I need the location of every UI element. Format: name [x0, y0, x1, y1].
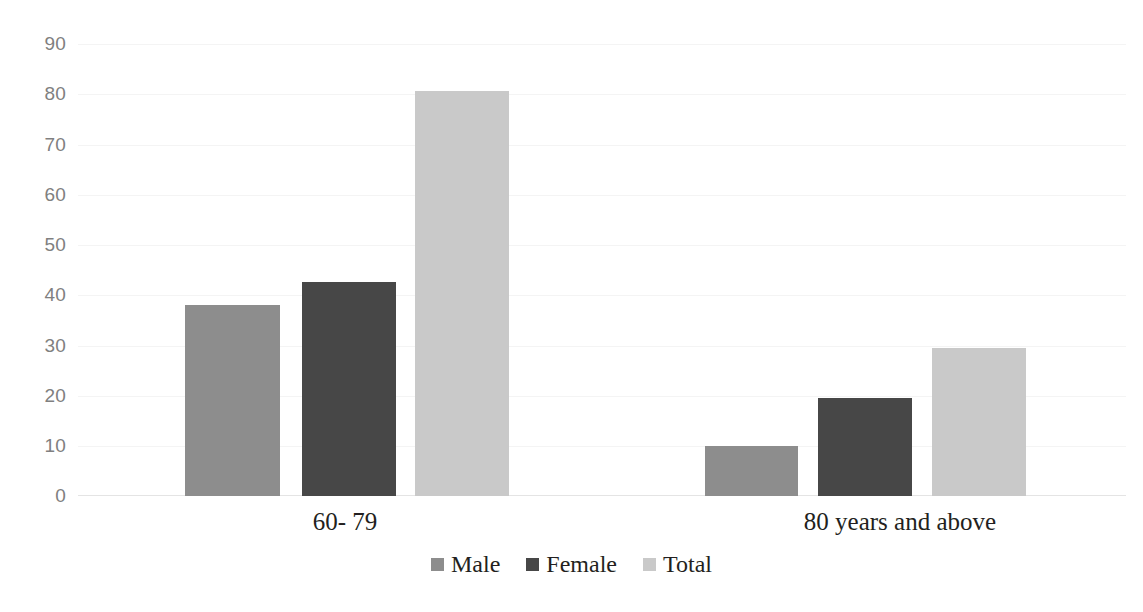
y-tick-label-60: 60: [44, 184, 66, 206]
legend-label-male: Male: [451, 552, 500, 576]
male-swatch-icon: [431, 558, 444, 571]
legend: Male Female Total: [0, 552, 1143, 576]
legend-item-female[interactable]: Female: [526, 552, 617, 576]
y-tick-label-80: 80: [44, 83, 66, 105]
y-tick-label-70: 70: [44, 134, 66, 156]
y-tick-label-0: 0: [55, 485, 66, 507]
gridline-40: [78, 295, 1126, 296]
y-tick-label-90: 90: [44, 33, 66, 55]
legend-item-male[interactable]: Male: [431, 552, 500, 576]
bar-chart: 90 80 70 60 50 40 30 20 10 0 60- 79 80 y…: [0, 0, 1143, 612]
legend-label-total: Total: [663, 552, 712, 576]
gridline-50: [78, 245, 1126, 246]
category-label-60-79: 60- 79: [230, 508, 460, 536]
y-tick-label-50: 50: [44, 234, 66, 256]
plot-area: [78, 44, 1126, 496]
total-swatch-icon: [643, 558, 656, 571]
bar-female-80-above: [818, 398, 912, 496]
bar-total-80-above: [932, 348, 1026, 496]
gridline-90: [78, 44, 1126, 45]
bar-female-60-79: [302, 282, 396, 496]
gridline-70: [78, 145, 1126, 146]
y-tick-label-40: 40: [44, 284, 66, 306]
legend-item-total[interactable]: Total: [643, 552, 712, 576]
gridline-80: [78, 94, 1126, 95]
female-swatch-icon: [526, 558, 539, 571]
bar-male-80-above: [705, 446, 798, 496]
y-tick-label-20: 20: [44, 385, 66, 407]
y-tick-label-10: 10: [44, 435, 66, 457]
gridline-60: [78, 195, 1126, 196]
bar-male-60-79: [185, 305, 280, 496]
y-tick-label-30: 30: [44, 335, 66, 357]
bar-total-60-79: [415, 91, 509, 496]
category-label-80-above: 80 years and above: [750, 508, 1050, 536]
legend-label-female: Female: [546, 552, 617, 576]
y-axis: 90 80 70 60 50 40 30 20 10 0: [0, 0, 78, 612]
